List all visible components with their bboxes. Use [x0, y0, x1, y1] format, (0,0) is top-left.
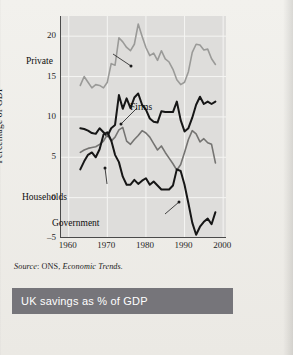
series-label-private: Private [26, 56, 53, 66]
leader-line [105, 168, 107, 184]
gridlines [61, 16, 226, 238]
y-tick-label: 5 [30, 151, 56, 161]
y-tick-label: 15 [30, 71, 56, 81]
series-label-firms: Firms [130, 102, 152, 112]
chart: Percentage of GDP 20151050–5 19601970198… [12, 14, 227, 252]
source-prefix: Source [14, 262, 37, 271]
y-axis-title: Percentage of GDP [8, 0, 18, 50]
plot-area [60, 16, 226, 238]
y-tick-label: –5 [30, 232, 56, 242]
series-line-private [80, 24, 215, 88]
x-tick-label: 1970 [97, 240, 115, 250]
series-canvas [61, 16, 226, 238]
source-body: : ONS, [37, 262, 63, 271]
x-tick-label: 1960 [59, 240, 77, 250]
x-tick-label: 1980 [136, 240, 154, 250]
figure-container: Percentage of GDP 20151050–5 19601970198… [0, 0, 293, 355]
series-label-government: Government [52, 218, 100, 228]
leader-arrowhead [178, 201, 181, 204]
series-line-firms [80, 94, 215, 137]
x-tick-label: 1990 [175, 240, 193, 250]
caption-text: UK savings as % of GDP [12, 295, 148, 307]
y-axis-ticks: 20151050–5 [28, 14, 56, 252]
series-label-households: Households [22, 192, 67, 202]
leader-arrowhead [120, 123, 123, 126]
x-axis-ticks: 19601970198019902000 [60, 240, 240, 256]
y-tick-label: 10 [30, 111, 56, 121]
caption-bar: UK savings as % of GDP [12, 288, 233, 314]
source-italic: Economic Trends. [63, 262, 123, 271]
leader-arrowhead [130, 65, 133, 68]
y-tick-label: 20 [30, 30, 56, 40]
y-axis-title-text: Percentage of GDP [0, 50, 4, 200]
series-line-government [80, 132, 215, 235]
source-note: Source: ONS, Economic Trends. [14, 262, 123, 271]
x-tick-label: 2000 [213, 240, 231, 250]
leader-arrowhead [104, 167, 107, 170]
series-group [80, 24, 215, 235]
leader-line [165, 202, 179, 214]
